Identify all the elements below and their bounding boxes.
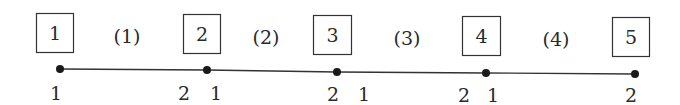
node-dot-3 xyxy=(333,68,341,76)
element-label: (1) xyxy=(114,25,141,47)
node-box-3: 3 xyxy=(314,16,352,55)
node-number: 5 xyxy=(625,26,637,48)
node-box-4: 4 xyxy=(463,17,501,56)
node-number: 3 xyxy=(326,24,338,46)
local-node-label: 2 xyxy=(327,83,339,105)
node-number: 4 xyxy=(475,25,487,47)
local-node-label: 1 xyxy=(487,84,499,105)
local-node-label: 2 xyxy=(458,84,470,105)
finite-element-diagram: 12345 (1)(2)(3)(4) 12121212 xyxy=(0,0,680,105)
diagram-canvas: 12345 (1)(2)(3)(4) 12121212 xyxy=(0,0,680,105)
node-dot-2 xyxy=(203,66,211,74)
bar-line xyxy=(60,69,635,74)
node-dot-4 xyxy=(482,69,490,77)
node-number: 1 xyxy=(49,22,61,44)
node-box-2: 2 xyxy=(184,15,221,54)
local-node-label: 1 xyxy=(210,82,222,104)
local-node-label: 2 xyxy=(625,84,637,105)
node-box-1: 1 xyxy=(37,14,74,53)
local-node-labels: 12121212 xyxy=(50,82,637,105)
local-node-label: 2 xyxy=(178,82,190,104)
local-node-label: 1 xyxy=(50,82,62,104)
node-box-5: 5 xyxy=(613,18,650,57)
element-label: (2) xyxy=(253,26,280,48)
element-label: (3) xyxy=(394,27,421,49)
node-dot-5 xyxy=(631,70,639,78)
node-dot-1 xyxy=(56,65,64,73)
element-label: (4) xyxy=(543,28,570,50)
local-node-label: 1 xyxy=(358,83,370,105)
bar-axis-line xyxy=(60,69,635,74)
node-number: 2 xyxy=(196,23,208,45)
